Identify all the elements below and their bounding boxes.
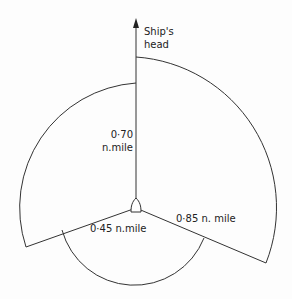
port-range-label: 0·70 n.mile: [101, 129, 133, 153]
port-range-unit: n.mile: [101, 142, 133, 153]
astern-range-label: 0·45 n.mile: [90, 223, 146, 234]
astern-arc: [62, 230, 204, 285]
ships-head-label-line2: head: [144, 39, 174, 50]
starboard-sector: [136, 57, 277, 263]
ships-head-label-line1: Ship's: [144, 26, 174, 37]
starboard-range-label: 0·85 n. mile: [176, 213, 236, 224]
radar-range-diagram: Ship's head 0·70 n.mile 0·85 n. mile 0·4…: [0, 0, 292, 299]
port-range-value: 0·70: [101, 129, 133, 140]
ship-icon: [131, 198, 141, 212]
arrow-up-icon: [133, 18, 139, 28]
ships-head-label: Ship's head: [144, 26, 174, 50]
